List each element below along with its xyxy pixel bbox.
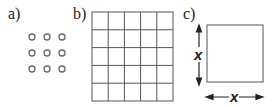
horizontal-dimension-label: x: [229, 89, 239, 104]
vertical-dimension-label: x: [194, 47, 202, 62]
circle-array: [29, 34, 65, 72]
square-grid: [92, 12, 173, 101]
square-shape: [207, 25, 263, 82]
